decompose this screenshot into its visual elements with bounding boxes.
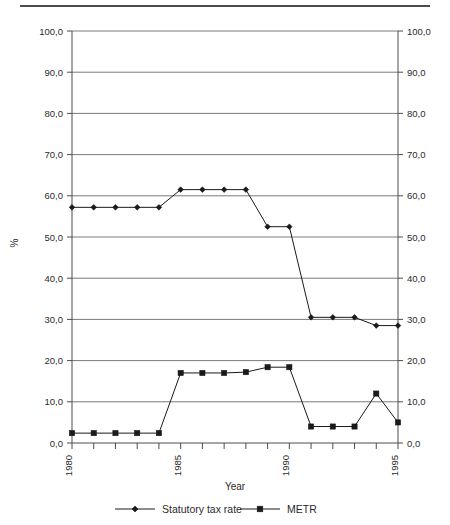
data-point-marker bbox=[69, 431, 74, 436]
data-point-marker bbox=[257, 506, 263, 512]
data-point-marker bbox=[374, 391, 379, 396]
data-point-marker bbox=[395, 420, 400, 425]
data-point-marker bbox=[243, 370, 248, 375]
y-tick-label-left: 20,0 bbox=[45, 355, 64, 366]
y-axis-left-ticks bbox=[67, 31, 72, 443]
series-statutory-tax-rate bbox=[69, 187, 401, 329]
y-axis-title: % bbox=[9, 238, 20, 247]
y-tick-label-right: 40,0 bbox=[407, 273, 426, 284]
data-point-marker bbox=[69, 205, 75, 211]
data-point-marker bbox=[200, 370, 205, 375]
y-tick-label-right: 70,0 bbox=[407, 149, 426, 160]
y-tick-label-left: 60,0 bbox=[45, 190, 64, 201]
series-polyline bbox=[72, 367, 398, 433]
data-point-marker bbox=[265, 365, 270, 370]
y-tick-label-right: 0,0 bbox=[407, 438, 420, 449]
data-point-marker bbox=[132, 506, 138, 512]
y-tick-label-left: 40,0 bbox=[45, 273, 64, 284]
y-tick-label-right: 60,0 bbox=[407, 190, 426, 201]
data-point-marker bbox=[156, 431, 161, 436]
y-tick-label-left: 80,0 bbox=[45, 108, 64, 119]
y-tick-label-left: 90,0 bbox=[45, 67, 64, 78]
y-tick-label-right: 50,0 bbox=[407, 232, 426, 243]
x-axis-ticks bbox=[72, 443, 398, 449]
data-point-marker bbox=[178, 370, 183, 375]
data-point-marker bbox=[113, 205, 119, 211]
data-point-marker bbox=[287, 365, 292, 370]
series-polyline bbox=[72, 190, 398, 326]
x-axis-title: Year bbox=[225, 481, 246, 492]
y-tick-label-right: 80,0 bbox=[407, 108, 426, 119]
x-axis-tick-labels: 1980198519901995 bbox=[63, 455, 400, 476]
y-tick-label-left: 30,0 bbox=[45, 314, 64, 325]
y-axis-left-tick-labels: 0,010,020,030,040,050,060,070,080,090,01… bbox=[39, 26, 63, 449]
data-point-marker bbox=[395, 323, 401, 329]
y-tick-label-left: 70,0 bbox=[45, 149, 64, 160]
y-tick-label-right: 10,0 bbox=[407, 396, 426, 407]
x-tick-label: 1985 bbox=[172, 455, 183, 476]
data-point-marker bbox=[134, 205, 140, 211]
data-point-marker bbox=[135, 431, 140, 436]
x-tick-label: 1990 bbox=[280, 455, 291, 476]
data-point-marker bbox=[91, 431, 96, 436]
data-point-marker bbox=[243, 187, 249, 193]
data-point-marker bbox=[330, 424, 335, 429]
x-tick-label: 1980 bbox=[63, 455, 74, 476]
data-point-marker bbox=[200, 187, 206, 193]
legend-item-metr[interactable]: METR bbox=[240, 503, 317, 515]
y-tick-label-left: 50,0 bbox=[45, 232, 64, 243]
y-axis-right-ticks bbox=[398, 31, 403, 443]
data-point-marker bbox=[308, 424, 313, 429]
data-point-marker bbox=[91, 205, 97, 211]
data-point-marker bbox=[373, 323, 379, 329]
x-tick-label: 1995 bbox=[389, 455, 400, 476]
data-point-marker bbox=[221, 187, 227, 193]
chart-legend: Statutory tax rateMETR bbox=[115, 503, 317, 515]
data-series-group bbox=[69, 187, 401, 436]
data-point-marker bbox=[222, 370, 227, 375]
y-tick-label-right: 20,0 bbox=[407, 355, 426, 366]
line-chart: 0,010,020,030,040,050,060,070,080,090,01… bbox=[0, 0, 450, 525]
data-point-marker bbox=[265, 224, 271, 230]
y-tick-label-right: 100,0 bbox=[407, 26, 431, 37]
y-tick-label-left: 0,0 bbox=[50, 438, 63, 449]
legend-item-statutory-tax-rate[interactable]: Statutory tax rate bbox=[115, 503, 242, 515]
y-tick-label-right: 30,0 bbox=[407, 314, 426, 325]
gridlines-group bbox=[72, 31, 398, 402]
y-tick-label-left: 100,0 bbox=[39, 26, 63, 37]
data-point-marker bbox=[352, 424, 357, 429]
y-tick-label-right: 90,0 bbox=[407, 67, 426, 78]
legend-label: METR bbox=[287, 503, 317, 515]
legend-label: Statutory tax rate bbox=[162, 503, 242, 515]
y-axis-right-tick-labels: 0,010,020,030,040,050,060,070,080,090,01… bbox=[407, 26, 431, 449]
y-tick-label-left: 10,0 bbox=[45, 396, 64, 407]
chart-figure: 0,010,020,030,040,050,060,070,080,090,01… bbox=[0, 0, 450, 525]
data-point-marker bbox=[113, 431, 118, 436]
series-metr bbox=[69, 365, 400, 436]
data-point-marker bbox=[287, 224, 293, 230]
